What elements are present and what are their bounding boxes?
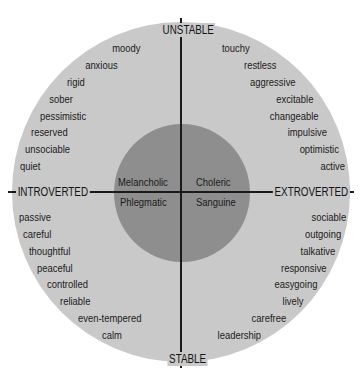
trait-leadership: leadership (217, 329, 261, 342)
trait-peaceful: peaceful (37, 262, 73, 275)
trait-unsociable: unsociable (25, 143, 70, 156)
trait-excitable: excitable (276, 93, 313, 106)
trait-moody: moody (113, 42, 141, 55)
trait-restless: restless (244, 59, 276, 72)
trait-reliable: reliable (60, 295, 90, 308)
trait-outgoing: outgoing (305, 228, 341, 241)
trait-optimistic: optimistic (300, 143, 339, 156)
trait-anxious: anxious (85, 59, 118, 72)
trait-easygoing: easygoing (274, 278, 317, 291)
axis-label-extroverted: EXTROVERTED (273, 185, 350, 199)
trait-sober: sober (49, 93, 73, 106)
trait-sociable: sociable (311, 211, 346, 224)
trait-pessimistic: pessimistic (40, 110, 86, 123)
trait-reserved: reserved (31, 126, 68, 139)
temperament-sanguine: Sanguine (196, 196, 236, 209)
temperament-choleric: Choleric (196, 176, 231, 189)
temperament-melancholic: Melancholic (118, 176, 168, 189)
trait-responsive: responsive (281, 262, 327, 275)
trait-controlled: controlled (47, 278, 88, 291)
trait-even-tempered: even-tempered (78, 312, 141, 325)
trait-rigid: rigid (67, 76, 85, 89)
trait-changeable: changeable (269, 110, 318, 123)
trait-aggressive: aggressive (250, 76, 296, 89)
temperament-diagram: UNSTABLE STABLE INTROVERTED EXTROVERTED … (0, 0, 362, 384)
trait-quiet: quiet (20, 160, 40, 173)
axis-label-introverted: INTROVERTED (16, 185, 90, 199)
trait-impulsive: impulsive (288, 126, 327, 139)
trait-carefree: carefree (251, 312, 286, 325)
trait-lively: lively (283, 295, 304, 308)
axis-label-stable: STABLE (167, 352, 207, 366)
trait-passive: passive (19, 211, 51, 224)
vertical-axis-line (180, 18, 182, 368)
trait-calm: calm (102, 329, 122, 342)
axis-label-unstable: UNSTABLE (161, 23, 216, 37)
trait-careful: careful (23, 228, 51, 241)
trait-thoughtful: thoughtful (29, 245, 70, 258)
trait-touchy: touchy (222, 42, 250, 55)
trait-talkative: talkative (300, 245, 335, 258)
temperament-phlegmatic: Phlegmatic (120, 196, 167, 209)
trait-active: active (320, 160, 345, 173)
inner-circle (114, 124, 250, 262)
